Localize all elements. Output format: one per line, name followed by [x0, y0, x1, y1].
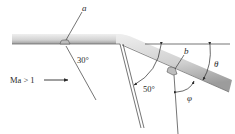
angle-phi-arc: [177, 81, 194, 92]
flow-label: Ma > 1: [10, 75, 35, 85]
angle-50-label: 50°: [143, 84, 155, 94]
probe-a-bump: [60, 40, 70, 44]
expansion-corner-diagram: a 30° Ma > 1 50° b φ θ: [0, 0, 235, 134]
mach-wave-b: [174, 75, 178, 134]
angle-theta-label: θ: [214, 59, 219, 69]
angle-phi-label: φ: [187, 93, 192, 103]
probe-b-label: b: [184, 46, 189, 56]
wall: [12, 34, 232, 92]
wall-horizontal: [12, 34, 130, 44]
angle-30-label: 30°: [77, 55, 89, 65]
expansion-wave-line: [120, 44, 144, 128]
probe-a-label: a: [82, 3, 87, 13]
